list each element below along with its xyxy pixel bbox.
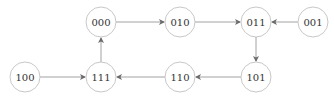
- node-011: 011: [241, 7, 271, 37]
- node-label: 110: [170, 72, 189, 83]
- nodes-layer: 000010011001100111110101: [10, 7, 328, 92]
- node-label: 000: [91, 17, 110, 28]
- node-111: 111: [86, 62, 116, 92]
- node-label: 111: [91, 72, 110, 83]
- node-label: 101: [246, 72, 265, 83]
- node-010: 010: [165, 7, 195, 37]
- state-diagram: 000010011001100111110101: [0, 0, 334, 102]
- node-000: 000: [86, 7, 116, 37]
- node-001: 001: [298, 7, 328, 37]
- node-label: 001: [303, 17, 322, 28]
- node-label: 010: [170, 17, 189, 28]
- node-label: 011: [246, 17, 265, 28]
- node-label: 100: [15, 72, 34, 83]
- node-110: 110: [165, 62, 195, 92]
- node-101: 101: [241, 62, 271, 92]
- node-100: 100: [10, 62, 40, 92]
